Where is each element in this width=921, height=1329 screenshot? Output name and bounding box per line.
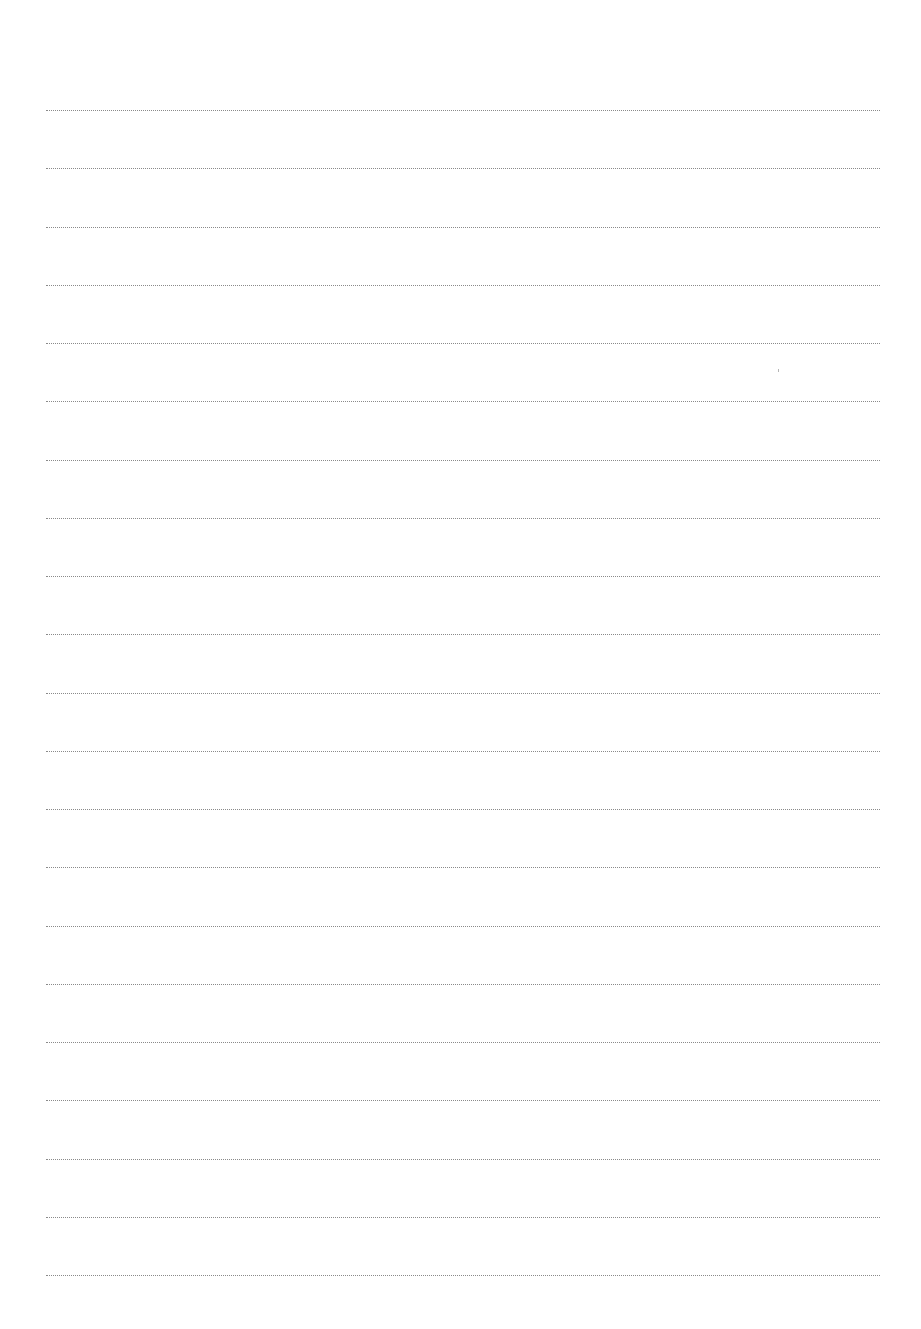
ruled-line bbox=[46, 285, 880, 286]
ruled-line bbox=[46, 693, 880, 694]
ruled-line bbox=[46, 168, 880, 169]
ruled-line bbox=[46, 460, 880, 461]
ruled-line bbox=[46, 751, 880, 752]
ruled-line bbox=[46, 343, 880, 344]
ruled-line bbox=[46, 1275, 880, 1276]
ruled-line bbox=[46, 1217, 880, 1218]
lined-paper-page bbox=[0, 0, 921, 1329]
ruled-line bbox=[46, 809, 880, 810]
ruled-line bbox=[46, 926, 880, 927]
ruled-line bbox=[46, 576, 880, 577]
ruled-line bbox=[46, 867, 880, 868]
ruled-line bbox=[46, 634, 880, 635]
ruled-line bbox=[46, 1159, 880, 1160]
scan-speck bbox=[778, 369, 779, 372]
ruled-line bbox=[46, 227, 880, 228]
ruled-line bbox=[46, 1100, 880, 1101]
ruled-line bbox=[46, 401, 880, 402]
ruled-line bbox=[46, 984, 880, 985]
ruled-line bbox=[46, 110, 880, 111]
ruled-line bbox=[46, 1042, 880, 1043]
ruled-line bbox=[46, 518, 880, 519]
